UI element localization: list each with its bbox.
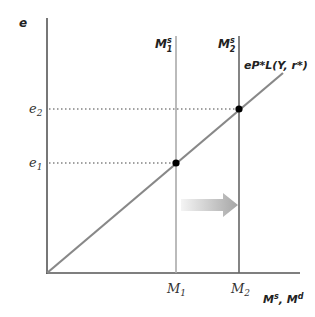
x-axis-label: Ms, Md [263, 292, 304, 306]
shift-arrow-icon [181, 193, 238, 217]
e2-tick-label: e2 [29, 101, 43, 118]
e1-tick-label: e1 [29, 155, 42, 172]
m2-tick-label: M2 [230, 281, 250, 298]
y-axis-label: e [19, 16, 27, 30]
money-market-diagram: e Ms1 Ms2 eP*L(Y, r*) e2 e1 M1 M2 Ms, Md [0, 0, 315, 317]
demand-line [47, 73, 283, 273]
m2-supply-label: Ms2 [218, 36, 236, 54]
demand-label: eP*L(Y, r*) [244, 59, 308, 72]
m1-tick-label: M1 [166, 281, 186, 298]
m1-supply-label: Ms1 [155, 36, 172, 54]
equilibrium-point-2 [235, 105, 242, 112]
equilibrium-point-1 [172, 159, 179, 166]
